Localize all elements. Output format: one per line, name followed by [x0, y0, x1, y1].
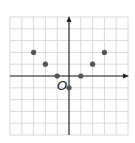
data-point [78, 73, 83, 78]
coordinate-plane [0, 0, 135, 143]
data-point [43, 62, 48, 67]
data-point [31, 50, 36, 55]
origin-label: O [57, 79, 67, 92]
data-point [90, 62, 95, 67]
data-point [102, 50, 107, 55]
axes [10, 16, 129, 135]
